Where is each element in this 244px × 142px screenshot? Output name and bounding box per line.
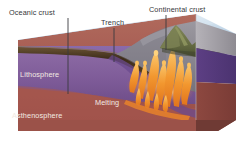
outside-mask-right <box>236 0 244 142</box>
bottom-corner-dark <box>196 120 236 131</box>
magma-head <box>154 50 159 56</box>
subduction-zone-diagram <box>0 0 244 142</box>
bottom-face-shade <box>18 120 196 131</box>
figure-canvas: Oceanic crust Trench Continental crust L… <box>0 0 244 142</box>
magma-head <box>187 62 191 67</box>
magma-head <box>143 60 147 65</box>
magma-head <box>179 56 183 61</box>
outside-mask-bottom <box>0 131 244 142</box>
magma-head <box>162 60 166 65</box>
block-bottom-bevel <box>18 120 236 131</box>
side-asthenosphere <box>196 82 236 120</box>
magma-head <box>135 60 139 65</box>
